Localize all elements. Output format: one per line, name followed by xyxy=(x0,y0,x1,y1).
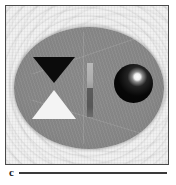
dark-vertical-bar-inclusion xyxy=(87,88,93,117)
light-triangle-inclusion xyxy=(32,90,76,119)
image-frame xyxy=(5,5,169,165)
caption-row: c xyxy=(0,165,176,185)
dark-triangle-inclusion xyxy=(33,57,75,83)
phantom-seam-vertical xyxy=(83,32,84,144)
light-vertical-bar-inclusion xyxy=(87,63,93,88)
caption-rule xyxy=(19,172,167,174)
figure-panel-c: c xyxy=(0,0,176,185)
dark-sphere-inclusion xyxy=(114,64,153,103)
panel-label: c xyxy=(9,165,14,179)
